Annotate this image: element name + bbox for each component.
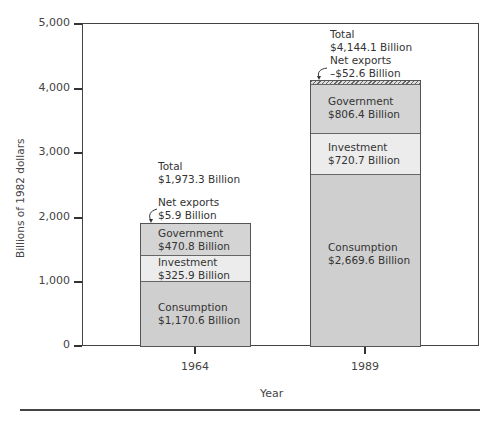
segment-label: Investment $720.7 Billion	[328, 141, 400, 167]
arrow-icon	[146, 207, 160, 225]
bottom-rule	[20, 409, 480, 411]
segment-label: Consumption $1,170.6 Billion	[158, 301, 240, 327]
segment-investment: Investment $720.7 Billion	[311, 134, 420, 175]
y-tick	[74, 88, 82, 90]
bar-1964: Government $470.8 Billion Investment $32…	[140, 223, 251, 347]
y-tick-label: 5,000	[10, 16, 70, 29]
arrow-icon	[314, 66, 330, 82]
y-tick	[74, 152, 82, 154]
x-tick-label: 1964	[165, 360, 225, 373]
net-exports-annotation-1964: Net exports $5.9 Billion	[158, 196, 219, 222]
y-tick	[74, 281, 82, 283]
x-tick	[364, 347, 366, 354]
y-tick	[74, 217, 82, 219]
segment-label: Government $806.4 Billion	[328, 95, 400, 121]
segment-investment: Investment $325.9 Billion	[141, 256, 250, 282]
x-tick-label: 1989	[335, 360, 395, 373]
total-annotation-1989: Total $4,144.1 Billion	[330, 28, 412, 54]
segment-consumption: Consumption $2,669.6 Billion	[311, 175, 420, 346]
x-axis-title: Year	[260, 387, 283, 400]
segment-label: Government $470.8 Billion	[158, 227, 230, 253]
net-exports-annotation-1989: Net exports –$52.6 Billion	[330, 54, 401, 80]
bar-1989: Government $806.4 Billion Investment $72…	[310, 80, 421, 347]
y-tick-label: 0	[10, 338, 70, 351]
segment-label: Consumption $2,669.6 Billion	[328, 241, 410, 267]
y-tick	[74, 345, 82, 347]
y-tick-label: 1,000	[10, 274, 70, 287]
total-annotation-1964: Total $1,973.3 Billion	[158, 160, 240, 186]
y-axis-title: Billions of 1982 dollars	[14, 139, 26, 258]
y-tick-label: 4,000	[10, 81, 70, 94]
y-tick	[74, 23, 82, 25]
segment-government: Government $470.8 Billion	[141, 224, 250, 256]
x-tick	[194, 347, 196, 354]
segment-consumption: Consumption $1,170.6 Billion	[141, 282, 250, 346]
segment-label: Investment $325.9 Billion	[158, 256, 230, 282]
segment-government: Government $806.4 Billion	[311, 85, 420, 134]
